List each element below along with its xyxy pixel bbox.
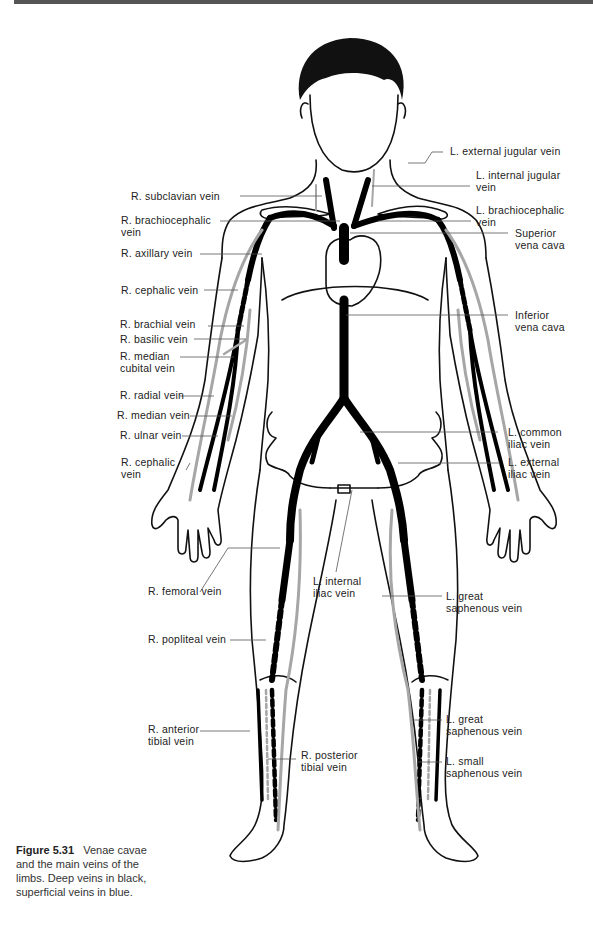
label-inferior-vena-cava: Inferior vena cava (515, 310, 565, 333)
l-anterior-tibial (436, 690, 440, 800)
label-l-brachiocephalic-vein: L. brachiocephalic vein (476, 205, 564, 228)
left-leg-outline (372, 470, 478, 862)
label-l-internal-jugular-vein: L. internal jugular vein (476, 170, 560, 193)
diaphragm (282, 287, 428, 301)
label-l-common-iliac-vein: L. common iliac vein (508, 427, 562, 450)
l-subclavian (354, 214, 438, 226)
face-outline (310, 95, 398, 172)
r-posterior-tibial (272, 690, 276, 820)
label-l-small-saphenous-vein: L. small saphenous vein (446, 756, 522, 779)
l-small-saphenous (428, 690, 430, 800)
label-l-great-saphenous-vein-leg: L. great saphenous vein (446, 714, 522, 737)
label-r-median-vein: R. median vein (117, 410, 190, 422)
label-r-anterior-tibial-vein: R. anterior tibial vein (148, 724, 199, 747)
r-popliteal (272, 600, 282, 680)
label-r-cephalic-vein-upper: R. cephalic vein (121, 285, 198, 297)
label-r-brachial-vein: R. brachial vein (120, 319, 196, 331)
ear-left (398, 103, 405, 118)
figure-number: Figure 5.31 (16, 844, 74, 856)
label-superior-vena-cava: Superior vena cava (515, 228, 565, 251)
l-femoral (404, 540, 412, 600)
r-femoral (282, 540, 290, 600)
pelvis-left (378, 412, 442, 488)
label-r-axillary-vein: R. axillary vein (121, 248, 192, 260)
label-l-external-jugular-vein: L. external jugular vein (450, 146, 560, 158)
label-l-internal-iliac-vein: L. internal iliac vein (313, 576, 361, 599)
r-brachial (238, 280, 248, 330)
figure-caption: Figure 5.31 Venae cavae and the main vei… (16, 843, 166, 899)
label-r-radial-vein: R. radial vein (120, 390, 184, 402)
l-brachial (460, 280, 470, 330)
r-anterior-tibial (258, 690, 262, 800)
label-r-posterior-tibial-vein: R. posterior tibial vein (301, 750, 358, 773)
heart (326, 236, 381, 306)
l-axillary (438, 220, 460, 280)
label-r-popliteal-vein: R. popliteal vein (148, 634, 226, 646)
label-r-ulnar-vein: R. ulnar vein (120, 430, 182, 442)
hair (299, 38, 404, 100)
r-common-iliac (290, 398, 344, 540)
label-r-brachiocephalic-vein: R. brachiocephalic vein (121, 215, 211, 238)
label-r-basilic-vein: R. basilic vein (120, 334, 188, 346)
label-r-femoral-vein: R. femoral vein (148, 586, 222, 598)
venous-system-illustration (0, 0, 593, 948)
ear-right (301, 103, 308, 118)
label-l-external-iliac-vein: L. external iliac vein (508, 457, 559, 480)
label-r-cephalic-vein-lower: R. cephalic vein (121, 457, 175, 480)
label-r-subclavian-vein: R. subclavian vein (131, 191, 220, 203)
right-leg-outline (230, 470, 336, 862)
l-external-jugular (372, 170, 374, 206)
label-l-great-saphenous-vein-thigh: L. great saphenous vein (446, 591, 522, 614)
r-small-saphenous (266, 690, 268, 800)
l-common-iliac (344, 398, 404, 540)
l-popliteal (412, 600, 422, 680)
label-r-median-cubital-vein: R. median cubital vein (120, 351, 175, 374)
